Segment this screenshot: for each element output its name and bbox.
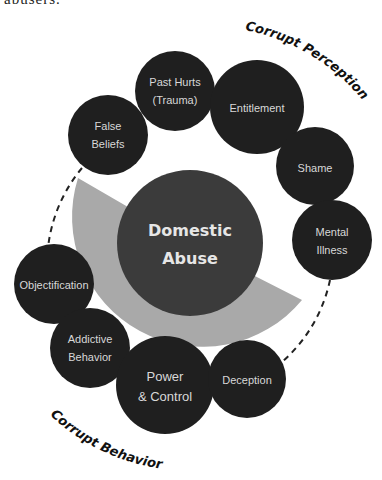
node-label: Illness [316, 244, 348, 256]
node-label: Deception [222, 374, 272, 386]
center-node-domestic-abuse: Domestic Abuse [117, 170, 263, 316]
node-label: Addictive [68, 333, 113, 345]
node-label: Past Hurts [149, 76, 201, 88]
center-label-line1: Domestic [148, 221, 232, 240]
node-power-control: Power & Control [116, 336, 214, 434]
node-deception: Deception [208, 340, 286, 418]
node-label: Behavior [68, 351, 112, 363]
node-label: False [95, 120, 122, 132]
node-false-beliefs: False Beliefs [68, 95, 148, 175]
node-mental-illness: Mental Illness [292, 200, 372, 280]
node-label: Objectification [19, 279, 88, 291]
dashed-arc-right [282, 280, 330, 362]
node-label: Shame [298, 162, 333, 174]
node-label: & Control [138, 389, 192, 404]
node-label: (Trauma) [153, 94, 198, 106]
node-label: Power [147, 369, 185, 384]
node-past-hurts: Past Hurts (Trauma) [135, 51, 215, 131]
center-label-line2: Abuse [162, 249, 218, 268]
node-label: Beliefs [91, 138, 125, 150]
node-label: Entitlement [229, 102, 284, 114]
domestic-abuse-diagram: Domestic Abuse False Beliefs Past Hurts … [0, 0, 382, 480]
node-label: Mental [315, 226, 348, 238]
node-shame: Shame [276, 127, 354, 205]
